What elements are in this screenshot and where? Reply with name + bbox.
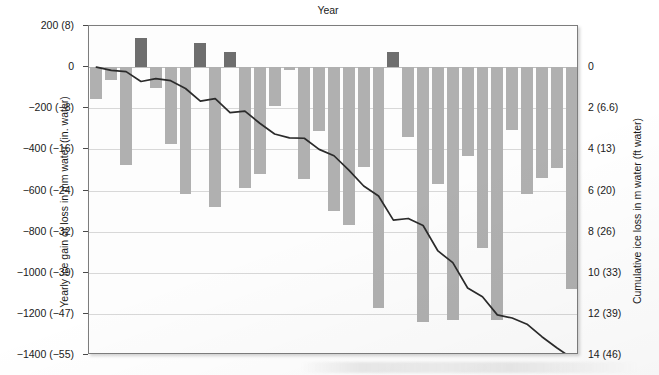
left-tick-mark: [83, 272, 88, 273]
left-tick-mark: [83, 190, 88, 191]
left-tick-mark: [83, 354, 88, 355]
left-tick-mark: [83, 107, 88, 108]
cumulative-line-path: [96, 67, 571, 354]
cumulative-line-series: [89, 26, 578, 354]
chart-figure: Year Yearly ice gain or loss in mm water…: [0, 0, 659, 375]
left-tick-mark: [83, 313, 88, 314]
left-tick-mark: [83, 25, 88, 26]
left-tick-mark: [83, 66, 88, 67]
left-tick-mark: [83, 231, 88, 232]
left-tick-mark: [83, 148, 88, 149]
plot-area: [88, 25, 578, 354]
